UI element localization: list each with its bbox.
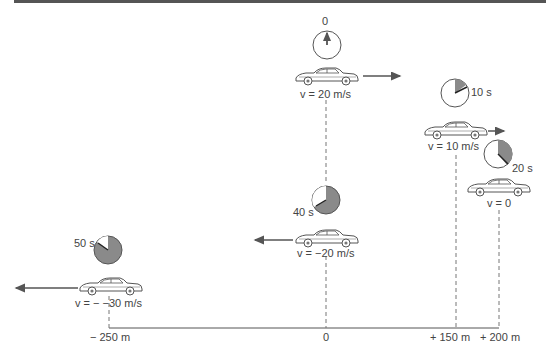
clock-icon-20s <box>484 140 512 168</box>
clock-label-0s: 0 <box>322 15 328 27</box>
clock-label-50s: 50 s <box>74 237 95 249</box>
velocity-label-50s: v = − −30 m/s <box>75 297 142 309</box>
car-icon-50s <box>80 278 142 295</box>
axis-tick-150: + 150 m <box>430 331 470 343</box>
clock-icon-40s <box>312 186 340 214</box>
axis-tick-0: 0 <box>323 331 329 343</box>
axis-tick-200: + 200 m <box>480 331 520 343</box>
clock-icon-0s <box>313 31 341 59</box>
velocity-label-0s: v = 20 m/s <box>300 88 351 100</box>
clock-label-40s: 40 s <box>293 206 314 218</box>
car-icon-10s <box>425 122 487 139</box>
velocity-label-40s: v = −20 m/s <box>297 247 354 259</box>
velocity-label-10s: v = 10 m/s <box>428 140 479 152</box>
car-icon-0s <box>296 68 358 85</box>
clock-label-10s: 10 s <box>471 86 492 98</box>
clock-icon-10s <box>441 79 469 107</box>
car-icon-40s <box>296 230 358 247</box>
clock-icon-50s <box>94 236 122 264</box>
clock-label-20s: 20 s <box>512 162 533 174</box>
car-icon-20s <box>468 179 530 196</box>
velocity-label-20s: v = 0 <box>487 197 511 209</box>
axis-tick-minus-250: − 250 m <box>90 331 130 343</box>
